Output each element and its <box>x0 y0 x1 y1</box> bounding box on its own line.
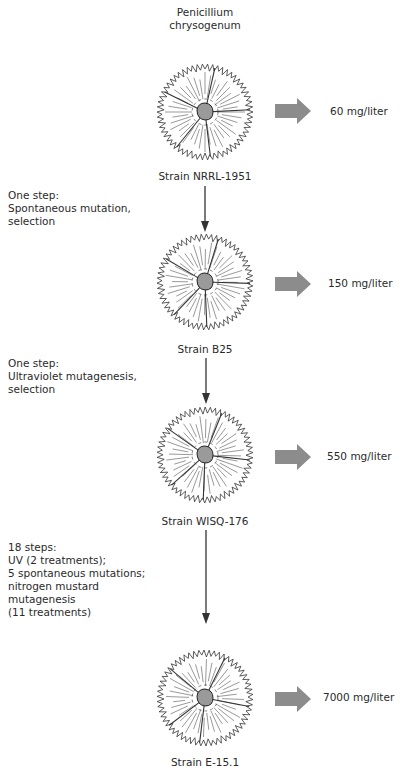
step-description-1: One step: Spontaneous mutation, selectio… <box>8 189 131 228</box>
title-line-2: chrysogenum <box>150 19 260 32</box>
step-arrow-icon <box>199 186 211 233</box>
strain-label-e-15-1: Strain E-15.1 <box>135 756 275 769</box>
yield-wisq-176: 550 mg/liter <box>327 450 392 463</box>
strain-label-b25: Strain B25 <box>135 343 275 356</box>
yield-e-15-1: 7000 mg/liter <box>323 691 394 704</box>
colony-icon-wisq-176 <box>153 403 257 507</box>
title-line-1: Penicillium <box>150 6 260 19</box>
yield-arrow-icon <box>274 270 314 298</box>
organism-title: Penicillium chrysogenum <box>150 6 260 32</box>
step-description-3: 18 steps: UV (2 treatments); 5 spontaneo… <box>8 541 145 619</box>
strain-label-nrrl-1951: Strain NRRL-1951 <box>135 170 275 183</box>
step-description-2: One step: Ultraviolet mutagenesis, selec… <box>8 357 137 396</box>
step-arrow-icon <box>200 358 212 405</box>
colony-icon-b25 <box>153 230 257 334</box>
colony-icon-nrrl-1951 <box>153 60 257 164</box>
yield-arrow-icon <box>274 97 314 125</box>
yield-arrow-icon <box>274 443 314 471</box>
colony-icon-e-15-1 <box>153 646 257 750</box>
strain-label-wisq-176: Strain WISQ-176 <box>135 515 275 528</box>
step-arrow-icon <box>200 530 212 626</box>
yield-nrrl-1951: 60 mg/liter <box>330 105 388 118</box>
yield-arrow-icon <box>274 685 314 713</box>
yield-b25: 150 mg/liter <box>328 277 393 290</box>
